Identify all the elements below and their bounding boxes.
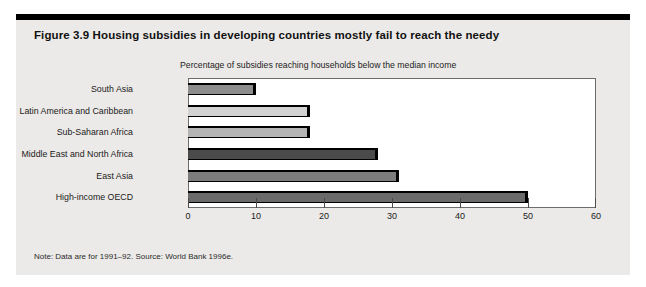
bar-row bbox=[188, 78, 596, 100]
category-label: East Asia bbox=[96, 171, 133, 181]
category-label: South Asia bbox=[91, 84, 133, 94]
x-axis-tick-labels: 0102030405060 bbox=[188, 211, 596, 225]
bar-middle-east-and-north-africa bbox=[188, 148, 378, 160]
category-label: Middle East and North Africa bbox=[22, 149, 133, 159]
bar-east-asia bbox=[188, 170, 399, 182]
x-tick-label: 50 bbox=[523, 211, 533, 221]
bar-series: South AsiaLatin America and CaribbeanSub… bbox=[188, 78, 596, 208]
x-tick-label: 30 bbox=[387, 211, 397, 221]
x-tick bbox=[256, 198, 257, 208]
category-label: Latin America and Caribbean bbox=[20, 106, 133, 116]
x-tick-label: 20 bbox=[319, 211, 329, 221]
bar-row bbox=[188, 121, 596, 143]
bar-latin-america-and-caribbean bbox=[188, 105, 310, 117]
x-tick bbox=[528, 198, 529, 208]
category-label: High-income OECD bbox=[56, 192, 133, 202]
figure-top-rule bbox=[16, 14, 630, 20]
x-tick-label: 10 bbox=[251, 211, 261, 221]
x-tick-label: 60 bbox=[591, 211, 601, 221]
x-tick bbox=[188, 198, 189, 208]
x-tick bbox=[324, 198, 325, 208]
figure-title: Figure 3.9 Housing subsidies in developi… bbox=[34, 29, 499, 41]
bar-row bbox=[188, 143, 596, 165]
x-axis-ticks bbox=[188, 198, 596, 208]
x-tick bbox=[460, 198, 461, 208]
bar-south-asia bbox=[188, 83, 256, 95]
bar-sub-saharan-africa bbox=[188, 126, 310, 138]
category-label: Sub-Saharan Africa bbox=[57, 127, 133, 137]
bar-row bbox=[188, 100, 596, 122]
x-tick-label: 40 bbox=[455, 211, 465, 221]
x-tick-label: 0 bbox=[185, 211, 190, 221]
chart-note: Note: Data are for 1991–92. Source: Worl… bbox=[34, 252, 233, 261]
bar-row bbox=[188, 165, 596, 187]
x-tick bbox=[595, 198, 596, 208]
chart-subtitle: Percentage of subsidies reaching househo… bbox=[180, 60, 456, 70]
x-tick bbox=[392, 198, 393, 208]
